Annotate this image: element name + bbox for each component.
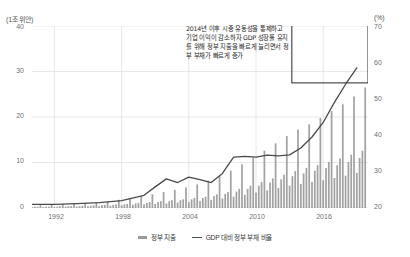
right-axis-tick-50: 50 bbox=[374, 95, 392, 102]
x-axis-tick-1998: 1998 bbox=[108, 213, 138, 220]
left-axis-tick-40: 40 bbox=[6, 23, 24, 30]
left-axis-tick-0: 0 bbox=[6, 203, 24, 210]
bar-swatch-icon bbox=[138, 236, 147, 239]
legend-label-government-spending: 정부 지출 bbox=[151, 232, 176, 242]
x-axis-tick-2016: 2016 bbox=[309, 213, 339, 220]
highlight-box bbox=[292, 26, 368, 83]
line-series-debt-to-gdp bbox=[32, 68, 357, 205]
left-axis-tick-20: 20 bbox=[6, 112, 24, 119]
right-axis-tick-70: 70 bbox=[374, 23, 392, 30]
legend-item-debt-to-gdp[interactable]: GDP 대비 정부 부채 비율 bbox=[192, 232, 273, 242]
right-axis-tick-20: 20 bbox=[374, 203, 392, 210]
bar-series-government-spending bbox=[32, 87, 366, 208]
chart-legend: 정부 지출 GDP 대비 정부 부채 비율 bbox=[0, 232, 410, 242]
right-axis-tick-30: 30 bbox=[374, 167, 392, 174]
left-axis-tick-10: 10 bbox=[6, 157, 24, 164]
legend-item-government-spending[interactable]: 정부 지출 bbox=[138, 232, 176, 242]
legend-label-debt-to-gdp: GDP 대비 정부 부채 비율 bbox=[206, 232, 273, 242]
right-axis-tick-40: 40 bbox=[374, 131, 392, 138]
right-axis-tick-60: 60 bbox=[374, 59, 392, 66]
x-axis-tick-1992: 1992 bbox=[41, 213, 71, 220]
annotation-text: 2014년 이후 시중 유동성을 통제하고 기업 이익이 감소하자 GDP 성장… bbox=[186, 25, 290, 61]
left-axis-tick-30: 30 bbox=[6, 67, 24, 74]
chart-container: (1조 위안) (%) 40 30 20 10 0 70 60 50 40 30… bbox=[0, 0, 410, 257]
right-axis-unit-label: (%) bbox=[374, 14, 384, 21]
line-swatch-icon bbox=[192, 237, 202, 238]
x-axis-tick-2010: 2010 bbox=[242, 213, 272, 220]
x-axis-tick-2004: 2004 bbox=[175, 213, 205, 220]
